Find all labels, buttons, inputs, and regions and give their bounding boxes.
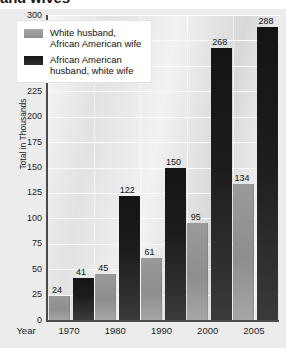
gridline [48,168,279,169]
bar [95,274,116,320]
bar [233,184,254,320]
chart-frame: Total in Thousands 300275250225200175150… [0,9,286,348]
chart-screenshot: and wives Total in Thousands 30027525022… [0,0,286,348]
y-axis-tick-label: 75 [12,239,42,248]
x-axis-tick-label: 1990 [137,325,187,336]
y-axis-tick-label: 200 [12,112,42,121]
gridline [48,117,279,118]
legend-label: White husband, African American wife [50,27,141,49]
bar [187,223,208,320]
legend-label: African American husband, white wife [50,54,133,76]
y-axis-tick-label: 50 [12,265,42,274]
bar-value-label: 122 [113,185,142,195]
gridline [48,15,279,16]
bar-value-label: 268 [205,37,234,47]
bar-value-label: 61 [135,247,164,257]
bar [119,196,140,320]
page-title: and wives [0,0,70,6]
x-axis-tick-label: 2005 [229,325,279,336]
y-axis-tick-label: 0 [12,316,42,325]
gridline [48,142,279,143]
bar-value-label: 95 [181,212,210,222]
bar-value-label: 134 [227,173,256,183]
legend-item: African American husband, white wife [24,54,141,76]
bar [165,168,186,321]
x-axis-title: Year [8,325,44,336]
bar [73,278,94,320]
y-axis-tick-label: 125 [12,188,42,197]
bar [211,48,232,320]
x-axis-tick-label: 2000 [183,325,233,336]
bar [141,258,162,320]
x-axis-tick-label: 1970 [44,325,94,336]
y-axis-tick-label: 225 [12,87,42,96]
y-axis-tick-label: 300 [12,11,42,20]
bar-value-label: 45 [89,263,118,273]
y-axis-tick-label: 25 [12,290,42,299]
legend-swatch-icon [24,56,43,65]
bar-value-label: 288 [251,16,280,26]
gridline [48,91,279,92]
bar [49,296,70,320]
legend: White husband, African American wife Afr… [16,20,152,83]
y-axis-tick-label: 150 [12,163,42,172]
bar [257,27,278,320]
legend-swatch-icon [24,29,43,38]
y-axis-tick-label: 175 [12,138,42,147]
bar-value-label: 150 [159,157,188,167]
y-axis-tick-label: 100 [12,214,42,223]
bar-value-label: 24 [43,285,72,295]
legend-item: White husband, African American wife [24,27,141,49]
x-axis-tick-label: 1980 [90,325,140,336]
chart-title-strip: and wives [0,0,286,7]
